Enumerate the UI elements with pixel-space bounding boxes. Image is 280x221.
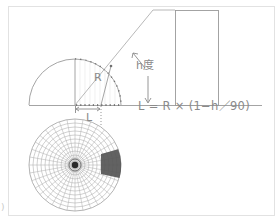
building-rect (176, 11, 219, 106)
corner-mark: ) (1, 203, 5, 212)
radius-label: R (94, 72, 102, 83)
formula-label: L = R × (1−h／90) (138, 101, 250, 113)
angle-label: h度 (136, 60, 154, 71)
fisheye-projection (29, 119, 121, 211)
diagram-canvas: R h度 L L = R × (1−h／90) ) (0, 0, 280, 221)
sight-line (75, 10, 153, 105)
intersection-point (110, 65, 113, 68)
distance-label: L (86, 112, 92, 123)
fisheye-center (72, 162, 78, 168)
obstruction-sector (101, 149, 121, 178)
